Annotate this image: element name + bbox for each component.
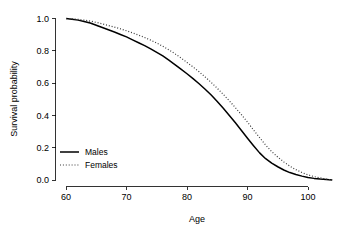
x-tick-label: 100 xyxy=(300,192,315,202)
y-tick-label: 0.4 xyxy=(36,111,49,121)
y-axis: 0.00.20.40.60.81.0 xyxy=(36,14,55,186)
y-tick-label: 0.0 xyxy=(36,175,49,185)
y-tick-label: 1.0 xyxy=(36,14,49,24)
x-tick-label: 70 xyxy=(121,192,131,202)
y-tick-label: 0.8 xyxy=(36,46,49,56)
x-tick-label: 80 xyxy=(182,192,192,202)
legend-label-females: Females xyxy=(85,160,118,170)
x-tick-label: 90 xyxy=(242,192,252,202)
chart-canvas: 0.00.20.40.60.81.0 60708090100 MalesFema… xyxy=(0,0,347,234)
chart-legend: MalesFemales xyxy=(60,147,118,170)
y-axis-title: Survival probability xyxy=(9,61,19,137)
survival-probability-chart: 0.00.20.40.60.81.0 60708090100 MalesFema… xyxy=(0,0,347,234)
y-tick-label: 0.6 xyxy=(36,78,49,88)
x-tick-label: 60 xyxy=(61,192,71,202)
legend-label-males: Males xyxy=(85,147,108,157)
x-axis-title: Age xyxy=(189,214,205,224)
y-tick-label: 0.2 xyxy=(36,143,49,153)
x-axis: 60708090100 xyxy=(61,187,316,202)
